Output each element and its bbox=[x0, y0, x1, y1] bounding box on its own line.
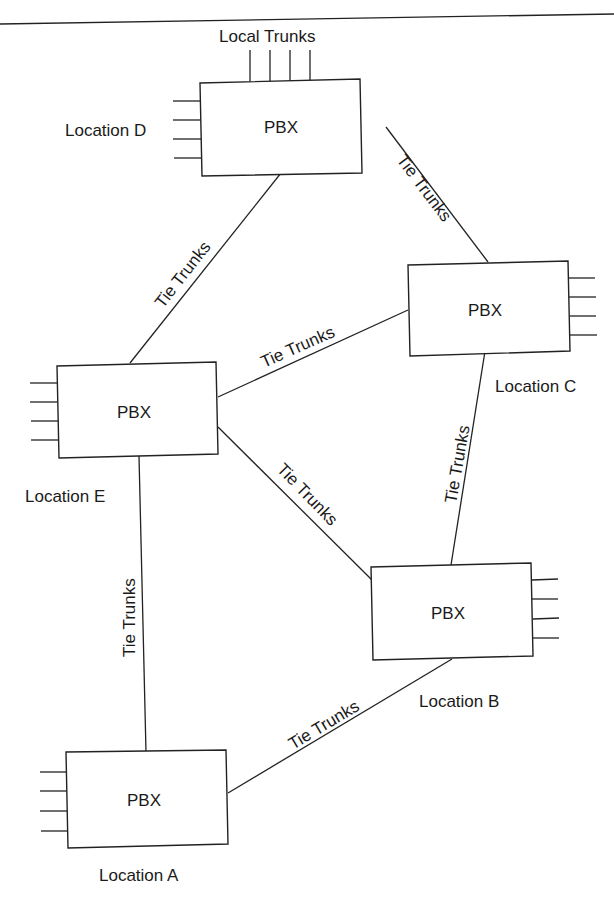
pbx-label: PBX bbox=[431, 604, 465, 623]
pbx-network-diagram: Tie Trunks Tie Trunks Tie Trunks Tie Tru… bbox=[0, 0, 614, 900]
edge-label: Tie Trunks bbox=[258, 322, 338, 371]
pbx-node-A: PBX Location A bbox=[40, 750, 228, 885]
pbx-node-E: PBX Location E bbox=[25, 362, 218, 506]
edge-E-C: Tie Trunks bbox=[218, 310, 408, 397]
pbx-label: PBX bbox=[117, 403, 151, 422]
location-label: Location D bbox=[65, 121, 146, 140]
pbx-node-C: PBX Location C bbox=[408, 261, 597, 396]
pbx-node-B: PBX Location B bbox=[371, 563, 559, 711]
edge-label: Tie Trunks bbox=[285, 697, 362, 754]
pbx-label: PBX bbox=[127, 791, 161, 810]
edge-E-B: Tie Trunks bbox=[218, 427, 372, 580]
local-trunks-label: Local Trunks bbox=[219, 27, 315, 46]
edge-C-B: Tie Trunks bbox=[441, 326, 489, 565]
edge-label: Tie Trunks bbox=[441, 424, 473, 505]
pbx-node-D: Local Trunks PBX Location D bbox=[65, 27, 362, 176]
location-label: Location E bbox=[25, 487, 105, 506]
edge-D-E: Tie Trunks bbox=[130, 173, 281, 363]
location-label: Location C bbox=[495, 377, 576, 396]
location-label: Location A bbox=[99, 866, 179, 885]
edge-label: Tie Trunks bbox=[151, 238, 214, 312]
edge-A-B: Tie Trunks bbox=[228, 659, 452, 793]
top-rule bbox=[0, 14, 614, 24]
edge-label: Tie Trunks bbox=[273, 460, 341, 530]
location-label: Location B bbox=[419, 692, 499, 711]
edge-E-A: Tie Trunks bbox=[120, 456, 146, 752]
pbx-label: PBX bbox=[468, 301, 502, 320]
edge-label: Tie Trunks bbox=[393, 151, 456, 225]
edge-label: Tie Trunks bbox=[120, 578, 139, 657]
edge-D-C: Tie Trunks bbox=[386, 127, 488, 262]
pbx-label: PBX bbox=[264, 118, 298, 137]
